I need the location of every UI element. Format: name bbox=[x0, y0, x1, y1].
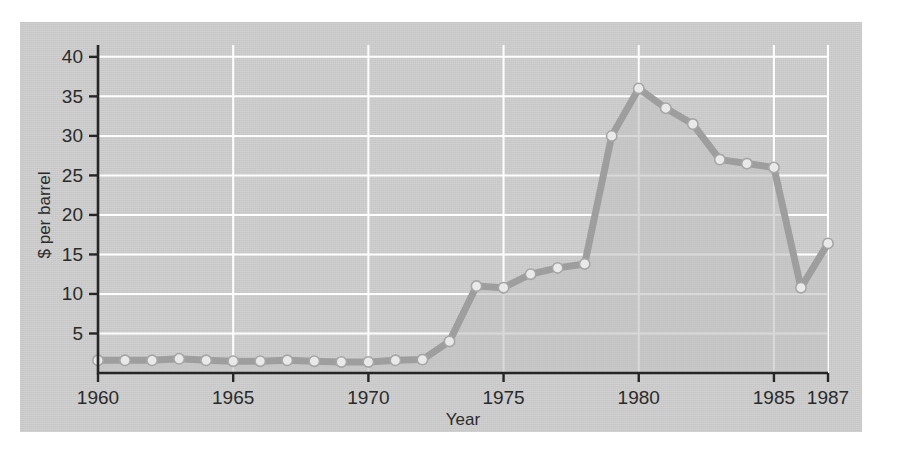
svg-text:10: 10 bbox=[62, 283, 83, 304]
x-axis-tick-marks bbox=[98, 373, 828, 382]
y-axis-title: $ per barrel bbox=[35, 172, 54, 259]
y-axis-tick-marks bbox=[89, 57, 98, 334]
svg-text:5: 5 bbox=[72, 323, 83, 344]
svg-text:25: 25 bbox=[62, 165, 83, 186]
svg-text:1987: 1987 bbox=[807, 387, 849, 408]
svg-text:15: 15 bbox=[62, 244, 83, 265]
svg-text:1960: 1960 bbox=[77, 387, 119, 408]
svg-text:20: 20 bbox=[62, 204, 83, 225]
chart-figure: 510152025303540 196019651970197519801985… bbox=[0, 0, 898, 453]
series-area-fill bbox=[98, 88, 828, 373]
x-axis-title: Year bbox=[446, 410, 481, 429]
svg-text:1980: 1980 bbox=[618, 387, 660, 408]
svg-text:1985: 1985 bbox=[753, 387, 795, 408]
svg-text:35: 35 bbox=[62, 86, 83, 107]
chart-plot-svg: 510152025303540 196019651970197519801985… bbox=[0, 0, 898, 453]
svg-text:40: 40 bbox=[62, 46, 83, 67]
y-axis-tick-labels: 510152025303540 bbox=[62, 46, 83, 344]
svg-text:1975: 1975 bbox=[482, 387, 524, 408]
svg-text:30: 30 bbox=[62, 125, 83, 146]
svg-text:1970: 1970 bbox=[347, 387, 389, 408]
x-axis-tick-labels: 1960196519701975198019851987 bbox=[77, 387, 849, 408]
svg-text:1965: 1965 bbox=[212, 387, 254, 408]
